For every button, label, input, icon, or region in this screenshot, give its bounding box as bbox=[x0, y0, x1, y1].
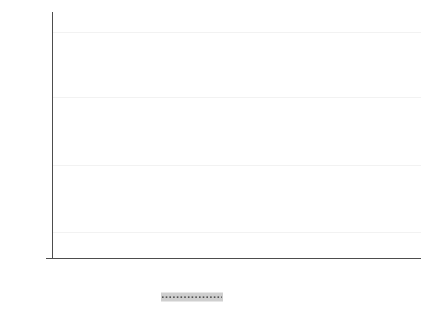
legend bbox=[161, 293, 223, 302]
chart-container bbox=[0, 0, 429, 325]
gridlines bbox=[53, 33, 421, 233]
axes bbox=[46, 12, 421, 259]
fdi-restrictions-marginal-effects-chart bbox=[0, 0, 429, 325]
